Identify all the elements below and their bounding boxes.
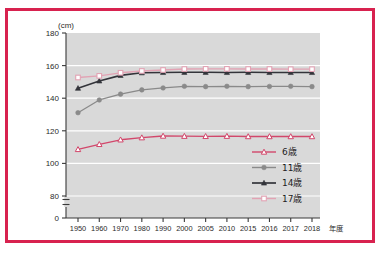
data-point-marker	[310, 84, 315, 89]
x-tick-label: 2010	[219, 224, 235, 233]
x-tick-label: 1970	[112, 224, 128, 233]
data-point-marker	[97, 74, 102, 79]
x-tick-label: 2016	[261, 224, 277, 233]
legend-label: 14歳	[282, 177, 302, 188]
y-tick-label: 100	[46, 159, 60, 168]
data-point-marker	[118, 92, 123, 97]
data-point-marker	[267, 67, 272, 72]
y-tick-label: 160	[46, 62, 60, 71]
y-axis-unit-label: (cm)	[58, 21, 74, 30]
data-point-marker	[288, 84, 293, 89]
data-point-marker	[246, 67, 251, 72]
data-point-marker	[203, 84, 208, 89]
data-point-marker	[310, 67, 315, 72]
plot-area-background	[66, 33, 320, 218]
data-point-marker	[161, 68, 166, 73]
x-tick-label: 2005	[197, 224, 213, 233]
legend-label: 17歳	[282, 193, 302, 204]
data-point-marker	[118, 70, 123, 75]
x-tick-label: 2000	[176, 224, 192, 233]
x-tick-label: 1990	[155, 224, 171, 233]
y-axis-ticks-group: 180160140120100800	[46, 29, 66, 223]
y-tick-label: 180	[46, 29, 60, 38]
data-point-marker	[161, 86, 166, 91]
legend-marker	[262, 165, 267, 170]
data-point-marker	[182, 67, 187, 72]
data-point-marker	[97, 98, 102, 103]
x-tick-label: 2015	[240, 224, 256, 233]
y-tick-label-zero: 0	[55, 214, 60, 223]
data-point-marker	[140, 69, 145, 74]
data-point-marker	[76, 75, 81, 80]
x-axis-ticks-group: 1950196019701980199020002005201020152016…	[70, 218, 320, 233]
data-point-marker	[267, 84, 272, 89]
data-point-marker	[225, 84, 230, 89]
data-point-marker	[246, 84, 251, 89]
data-point-marker	[140, 88, 145, 93]
legend-marker	[262, 196, 267, 201]
data-point-marker	[203, 67, 208, 72]
chart-stage: 180160140120100800 (cm) 1950196019701980…	[0, 0, 384, 255]
x-tick-label: 1980	[134, 224, 150, 233]
data-point-marker	[225, 67, 230, 72]
x-tick-label: 2018	[304, 224, 320, 233]
height-trend-line-chart: 180160140120100800 (cm) 1950196019701980…	[0, 0, 384, 255]
data-point-marker	[182, 84, 187, 89]
x-tick-label: 1950	[70, 224, 86, 233]
data-point-marker	[288, 67, 293, 72]
y-tick-label: 140	[46, 94, 60, 103]
legend-label: 11歳	[282, 162, 302, 173]
x-tick-label: 2017	[283, 224, 299, 233]
y-tick-label: 120	[46, 127, 60, 136]
x-axis-caption: 年度	[329, 224, 344, 233]
legend-label: 6歳	[282, 146, 297, 157]
data-point-marker	[76, 110, 81, 115]
y-tick-label: 80	[50, 192, 59, 201]
x-tick-label: 1960	[91, 224, 107, 233]
